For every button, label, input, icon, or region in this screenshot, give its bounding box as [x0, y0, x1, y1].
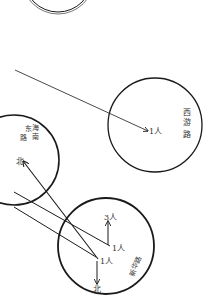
bottom-center-label: 1人 [100, 257, 113, 266]
svg-text:海: 海 [32, 123, 39, 132]
bottom-top-label: 3人 [104, 213, 117, 222]
top-circle [22, 0, 94, 14]
line-diagonal-to-left [23, 161, 98, 259]
bottom-bottom-label: 北 [93, 285, 101, 294]
right-circle-name: 西 游 路 [183, 108, 191, 139]
bottom-mid-label: 1人 [112, 244, 125, 253]
bottom-side-name: 新华路 [127, 255, 143, 278]
hand-drawn-diagram: 西 游 路 1人 东 路 海 南 北 3人 1人 1人 北 新华路 [0, 0, 206, 306]
svg-text:路: 路 [183, 129, 191, 139]
line-to-right-circle [15, 70, 148, 131]
left-circle-name: 东 路 海 南 [20, 123, 39, 142]
right-arrow-label: 1人 [149, 127, 162, 136]
svg-text:游: 游 [183, 117, 191, 127]
left-circle-direction: 北 [16, 157, 24, 166]
svg-text:路: 路 [20, 133, 27, 142]
svg-text:东: 东 [25, 124, 32, 133]
line-upper-to-bottom [14, 192, 110, 246]
svg-text:南: 南 [32, 132, 39, 141]
svg-text:西: 西 [183, 108, 191, 117]
